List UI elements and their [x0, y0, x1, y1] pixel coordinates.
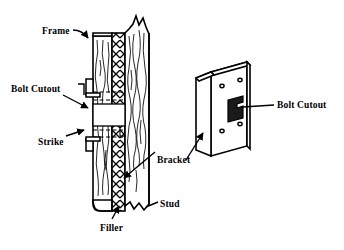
label-stud: Stud — [160, 200, 180, 210]
screw-hole-top-right — [238, 78, 242, 81]
left-cross-section — [86, 16, 149, 211]
leader-bolt-cutout-left-hook — [78, 84, 84, 95]
stud-member — [125, 16, 149, 210]
bolt-cutout-shape — [228, 96, 243, 122]
label-bolt-cutout-left: Bolt Cutout — [11, 85, 60, 95]
label-filler: Filler — [100, 224, 123, 234]
label-bracket: Bracket — [157, 156, 190, 166]
bracket-return-flange — [196, 72, 211, 156]
diagram-page: Frame Bolt Cutout Strike Bracket Stud Fi… — [0, 0, 344, 250]
screw-hole-bottom-right — [238, 122, 242, 125]
label-bolt-cutout-right: Bolt Cutout — [277, 101, 326, 111]
bracket-face-right-edge — [247, 62, 250, 149]
technical-diagram — [0, 0, 344, 250]
screw-hole-top-left — [220, 84, 224, 87]
leader-bolt-cutout-left — [63, 95, 88, 108]
label-strike: Strike — [38, 138, 64, 148]
right-bracket-isometric — [196, 62, 250, 156]
screw-hole-bottom-left — [220, 129, 224, 132]
leader-frame — [73, 30, 88, 38]
label-frame: Frame — [42, 27, 70, 37]
leader-strike — [66, 130, 84, 136]
